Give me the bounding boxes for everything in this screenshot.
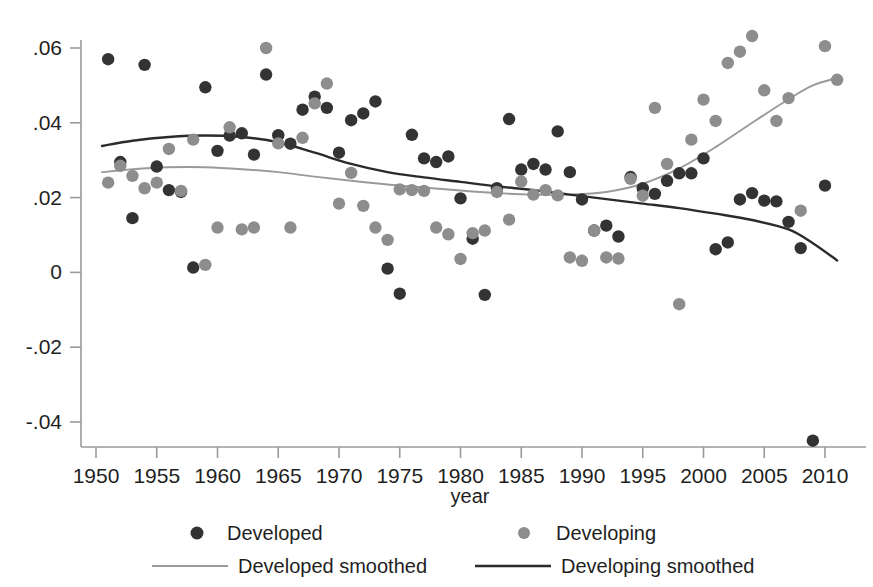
data-point [296,104,308,116]
data-point [758,84,770,96]
data-point [661,175,673,187]
legend-label-developing: Developing [556,522,656,544]
data-point [199,81,211,93]
data-point [503,213,515,225]
x-tick-label: 1955 [133,464,180,487]
data-point [369,95,381,107]
legend-label-developed-smoothed: Developed smoothed [238,555,427,577]
data-point [114,160,126,172]
data-point [758,194,770,206]
data-point [746,187,758,199]
data-point [479,289,491,301]
y-axis-ticks: .06.04.020-.02-.04 [26,36,81,433]
x-tick-label: 1975 [376,464,423,487]
data-point [248,221,260,233]
data-point [770,195,782,207]
data-point [685,133,697,145]
x-tick-label: 1970 [316,464,363,487]
data-point [564,251,576,263]
data-point [126,170,138,182]
data-point [612,230,624,242]
data-point [236,127,248,139]
data-point [661,158,673,170]
data-point [199,259,211,271]
x-axis-ticks: 1950195519601965197019751980198519901995… [73,447,849,487]
data-point [418,152,430,164]
data-point [807,435,819,447]
legend-marker-developed [191,527,204,540]
x-tick-label: 1965 [255,464,302,487]
data-point [357,107,369,119]
data-point [406,129,418,141]
y-tick-label: .04 [33,111,63,134]
data-point [746,30,758,42]
data-point [442,228,454,240]
data-point [576,255,588,267]
x-tick-label: 2010 [802,464,849,487]
y-tick-label: .06 [33,36,62,59]
data-point [491,186,503,198]
legend-label-developed: Developed [227,522,323,544]
legend: Developed Developing Developed smoothed … [152,522,754,577]
x-tick-label: 1995 [619,464,666,487]
data-point [454,192,466,204]
x-tick-label: 2000 [680,464,727,487]
legend-marker-developing [518,527,530,539]
data-point [369,221,381,233]
data-point [175,185,187,197]
data-point [321,102,333,114]
data-point [734,46,746,58]
scatter-plot: .06.04.020-.02-.04 195019551960196519701… [0,0,873,587]
data-point [697,152,709,164]
data-point [527,158,539,170]
data-point [223,121,235,133]
data-point [819,40,831,52]
scatter-points-layer [102,30,843,447]
data-point [539,184,551,196]
data-point [673,167,685,179]
data-point [564,166,576,178]
data-point [527,188,539,200]
data-point [102,53,114,65]
data-point [795,242,807,254]
data-point [151,160,163,172]
data-point [697,93,709,105]
data-point [151,176,163,188]
data-point [430,156,442,168]
data-point [770,115,782,127]
data-point [394,183,406,195]
data-point [552,189,564,201]
data-point [333,147,345,159]
data-point [503,113,515,125]
y-tick-label: -.02 [26,335,62,358]
x-tick-label: 1960 [194,464,241,487]
x-tick-label: 1985 [498,464,545,487]
data-point [673,298,685,310]
data-point [479,224,491,236]
data-point [722,236,734,248]
data-point [102,176,114,188]
y-tick-label: -.04 [26,410,63,433]
data-point [211,145,223,157]
data-point [321,77,333,89]
data-point [709,115,721,127]
data-point [126,212,138,224]
data-point [552,125,564,137]
data-point [612,252,624,264]
data-point [442,150,454,162]
data-point [211,221,223,233]
x-tick-label: 2005 [741,464,788,487]
data-point [734,193,746,205]
data-point [163,184,175,196]
data-point [260,68,272,80]
data-point [722,57,734,69]
data-point [187,133,199,145]
y-tick-label: 0 [50,260,62,283]
data-point [515,175,527,187]
legend-label-developing-smoothed: Developing smoothed [561,555,754,577]
x-tick-label: 1990 [559,464,606,487]
data-point [260,42,272,54]
data-point [381,234,393,246]
data-point [831,74,843,86]
data-point [466,227,478,239]
